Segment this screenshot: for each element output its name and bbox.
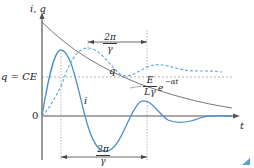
diagram-graphics bbox=[0, 0, 254, 168]
damped-oscillation-diagram: i, q t 0 q = CE q i E Lγ e −αt 2π γ 2π γ bbox=[0, 0, 254, 168]
y-axis-label: i, q bbox=[30, 4, 46, 14]
top-period-label: 2π γ bbox=[103, 33, 117, 54]
envelope-label: E Lγ bbox=[143, 76, 157, 97]
x-axis-label: t bbox=[240, 121, 244, 131]
level-label: q = CE bbox=[1, 72, 37, 82]
charge-label: q bbox=[109, 66, 115, 76]
current-label: i bbox=[84, 96, 87, 106]
envelope-pointer bbox=[130, 86, 142, 88]
arrow-right-icon bbox=[141, 155, 147, 159]
bottom-period-label: 2π γ bbox=[96, 145, 110, 166]
arrow-left-icon bbox=[88, 40, 94, 44]
arrow-left-icon bbox=[61, 155, 67, 159]
current-curve bbox=[42, 50, 232, 151]
envelope-exp: e bbox=[158, 84, 163, 93]
origin-label: 0 bbox=[32, 111, 38, 121]
x-axis-arrow-icon bbox=[233, 114, 240, 119]
envelope-curve bbox=[42, 22, 232, 108]
corner-mark-icon bbox=[242, 158, 250, 165]
envelope-sup: −αt bbox=[165, 79, 178, 86]
arrow-right-icon bbox=[141, 40, 147, 44]
